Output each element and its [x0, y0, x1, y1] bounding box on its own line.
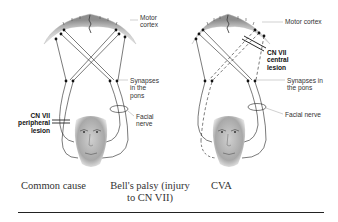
synapses-label-right: Synapses in the pons [287, 77, 323, 92]
motor-cortex-left [44, 14, 136, 44]
motor-cortex-label-left: Motor cortex [140, 14, 158, 29]
central-lesion-label: CN VII central lesion [267, 49, 289, 71]
peripheral-lesion-mark [52, 120, 70, 123]
facial-nerve-label-right: Facial nerve [285, 111, 321, 118]
caption-common-cause: Common cause [21, 180, 86, 192]
caption-bells-palsy: Bell's palsy (injury to CN VII) [108, 180, 192, 203]
motor-cortex-label-right: Motor cortex [285, 18, 322, 25]
face-right [213, 116, 245, 167]
central-panel [192, 14, 285, 167]
peripheral-lesion-label: CN VII peripheral lesion [10, 112, 50, 134]
bottom-divider [18, 212, 324, 213]
facial-nerve-label-left: Facial nerve [136, 113, 154, 128]
face-left [75, 116, 107, 167]
peripheral-panel [44, 14, 138, 167]
caption-cva: CVA [211, 180, 232, 192]
synapses-label-left: Synapses in the pons [130, 77, 159, 99]
